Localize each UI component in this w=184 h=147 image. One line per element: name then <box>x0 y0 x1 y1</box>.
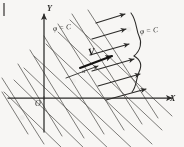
origin-label: O <box>35 100 41 108</box>
y-axis-label: Y <box>47 5 52 13</box>
vector-label: V <box>87 47 95 58</box>
x-axis-label: X <box>170 95 175 103</box>
vector-field-diagram <box>0 0 184 147</box>
grid-family-b <box>2 10 158 144</box>
level-curve-label-left: φ = C <box>53 23 72 32</box>
boundary-bracket <box>131 13 141 92</box>
level-curve-label-right: φ = C <box>140 26 159 35</box>
figure-container: Y X O φ = C φ = C V α <box>0 0 184 147</box>
